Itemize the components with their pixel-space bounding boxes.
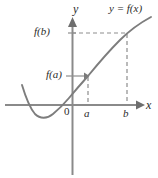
graph-canvas bbox=[0, 0, 158, 178]
y-axis-arrowhead bbox=[68, 17, 77, 27]
x-axis-label: x bbox=[146, 99, 151, 111]
x-axis-arrowhead bbox=[136, 101, 145, 110]
y-axis-label: y bbox=[73, 3, 78, 15]
curve-equation-label: y = f(x) bbox=[109, 3, 142, 14]
f-of-a-label: f(a) bbox=[46, 69, 62, 80]
f-of-b-label: f(b) bbox=[34, 26, 50, 37]
origin-label: 0 bbox=[64, 106, 70, 117]
a-tick-label: a bbox=[84, 108, 90, 119]
figure-graph-of-f: y x y = f(x) f(b) f(a) 0 a b bbox=[0, 0, 158, 178]
b-tick-label: b bbox=[123, 108, 129, 119]
